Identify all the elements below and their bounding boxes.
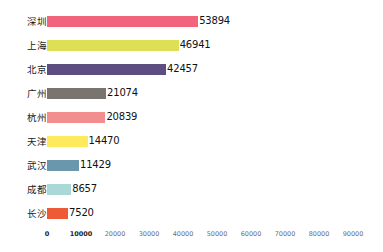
bar[interactable]: [47, 136, 88, 147]
bar-track: [47, 64, 166, 75]
bar-row: 广州21074: [0, 82, 383, 106]
bar[interactable]: [47, 40, 179, 51]
bar-value-label: 14470: [89, 133, 120, 149]
bar-track: [47, 112, 105, 123]
bar-track: [47, 136, 88, 147]
x-tick-label: 30000: [139, 228, 160, 240]
bar-value-label: 20839: [106, 109, 137, 125]
bar-track: [47, 88, 106, 99]
category-label: 成都: [1, 182, 47, 198]
x-tick-label: 10000: [70, 228, 93, 240]
bar[interactable]: [47, 88, 106, 99]
category-label: 天津: [1, 134, 47, 150]
category-label: 武汉: [1, 158, 47, 174]
bar-row: 武汉11429: [0, 154, 383, 178]
bar-value-label: 11429: [80, 157, 111, 173]
bar[interactable]: [47, 184, 71, 195]
plot-area: 深圳53894上海46941北京42457广州21074杭州20839天津144…: [0, 0, 383, 252]
x-tick-label: 40000: [173, 228, 194, 240]
bar-track: [47, 16, 198, 27]
category-label: 杭州: [1, 110, 47, 126]
x-tick-label: 0: [45, 228, 50, 240]
bar-value-label: 21074: [107, 85, 138, 101]
x-tick-label: 60000: [241, 228, 262, 240]
category-label: 深圳: [1, 14, 47, 30]
bar-row: 长沙7520: [0, 202, 383, 226]
bar-row: 北京42457: [0, 58, 383, 82]
bar-chart: 深圳53894上海46941北京42457广州21074杭州20839天津144…: [0, 0, 383, 252]
bar-value-label: 42457: [167, 61, 198, 77]
bar-track: [47, 40, 179, 51]
bar-value-label: 7520: [69, 205, 94, 221]
bar-value-label: 46941: [180, 37, 211, 53]
category-label: 上海: [1, 38, 47, 54]
category-label: 广州: [1, 86, 47, 102]
category-label: 北京: [1, 62, 47, 78]
bar[interactable]: [47, 64, 166, 75]
bar-row: 杭州20839: [0, 106, 383, 130]
bar-value-label: 53894: [199, 13, 230, 29]
bar-row: 上海46941: [0, 34, 383, 58]
x-tick-label: 80000: [309, 228, 330, 240]
bar[interactable]: [47, 160, 79, 171]
bar-value-label: 8657: [72, 181, 97, 197]
x-tick-label: 20000: [105, 228, 126, 240]
bar-row: 天津14470: [0, 130, 383, 154]
bar[interactable]: [47, 112, 105, 123]
x-axis: 0100002000030000400005000060000700008000…: [0, 228, 383, 244]
bar-track: [47, 208, 68, 219]
bar-row: 成都8657: [0, 178, 383, 202]
category-label: 长沙: [1, 206, 47, 222]
bar-track: [47, 160, 79, 171]
x-tick-label: 70000: [275, 228, 296, 240]
bar-row: 深圳53894: [0, 10, 383, 34]
x-tick-label: 90000: [343, 228, 364, 240]
bar-track: [47, 184, 71, 195]
bar[interactable]: [47, 16, 198, 27]
x-tick-label: 50000: [207, 228, 228, 240]
bar[interactable]: [47, 208, 68, 219]
